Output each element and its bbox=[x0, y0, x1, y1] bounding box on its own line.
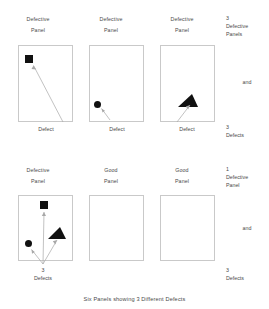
defect-square-r2c1 bbox=[40, 201, 48, 209]
summary-r2-bottom-line1: Defects bbox=[226, 274, 268, 282]
six-panel-defect-figure: Defective Panel Defect Defective Panel D… bbox=[0, 0, 269, 309]
panel-title-r1c1-line1: Defective bbox=[3, 15, 73, 24]
defect-circle-r2c1 bbox=[25, 240, 32, 247]
defect-circle-r1c2 bbox=[94, 101, 101, 108]
panel-title-r1c2-line2: Panel bbox=[76, 26, 146, 35]
summary-r1-top-line1: Defective bbox=[226, 22, 268, 30]
panel-title-r1c1-line2: Panel bbox=[3, 26, 73, 35]
summary-r1-count-bottom: 3 bbox=[226, 123, 268, 131]
panel-title-r1c3-line1: Defective bbox=[147, 15, 217, 24]
panel-title-r2c3-line1: Good bbox=[147, 166, 217, 175]
defect-caption-r2c1-count: 3 bbox=[13, 266, 73, 274]
panel-title-r2c1-line1: Defective bbox=[3, 166, 73, 175]
defect-square-r1c1 bbox=[25, 55, 33, 63]
defect-caption-r1c1: Defect bbox=[16, 125, 76, 133]
panel-title-r2c2-line1: Good bbox=[76, 166, 146, 175]
panel-box-r2c3[interactable] bbox=[160, 195, 215, 261]
panel-box-r2c2[interactable] bbox=[89, 195, 144, 261]
summary-r2-count-bottom: 3 bbox=[226, 266, 268, 274]
panel-title-r1c3-line2: Panel bbox=[147, 26, 217, 35]
summary-r2-conjunction: and bbox=[226, 224, 268, 232]
summary-r1-conjunction: and bbox=[226, 78, 268, 86]
summary-r1-bottom-line1: Defects bbox=[226, 131, 268, 139]
figure-caption: Six Panels showing 3 Different Defects bbox=[0, 295, 269, 304]
panel-box-r1c3[interactable] bbox=[160, 45, 215, 122]
summary-r2-count-top: 1 bbox=[226, 165, 268, 173]
defect-caption-r2c1-word: Defects bbox=[13, 274, 73, 282]
defect-caption-r1c2: Defect bbox=[87, 125, 147, 133]
panel-title-r1c2-line1: Defective bbox=[76, 15, 146, 24]
defect-caption-r1c3: Defect bbox=[157, 125, 217, 133]
panel-title-r2c1-line2: Panel bbox=[3, 177, 73, 186]
summary-r2-top-line1: Defective bbox=[226, 173, 268, 181]
summary-r1-top-line2: Panels bbox=[226, 30, 268, 38]
panel-title-r2c3-line2: Panel bbox=[147, 177, 217, 186]
panel-title-r2c2-line2: Panel bbox=[76, 177, 146, 186]
panel-box-r1c2[interactable] bbox=[89, 45, 144, 122]
summary-r2-top-line2: Panel bbox=[226, 181, 268, 189]
summary-r1-count-top: 3 bbox=[226, 14, 268, 22]
